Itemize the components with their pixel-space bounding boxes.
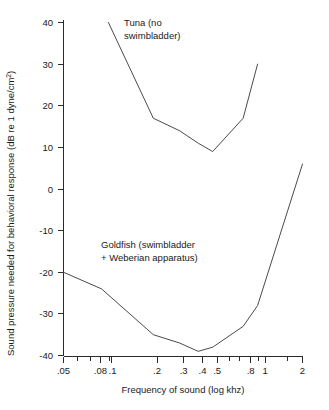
goldfish-annotation: Goldfish (swimbladder + Weberian apparat… <box>101 239 198 263</box>
tuna-label-line2: swimbladder) <box>124 30 181 41</box>
x-tick-label: .8 <box>247 365 255 376</box>
x-axis-ticks <box>64 357 303 363</box>
x-tick-label: .5 <box>213 365 221 376</box>
y-tick-label: 10 <box>42 142 53 153</box>
x-axis-tick-labels: .05 .08 .1 .2 .3 .4 .5 .8 1 2 <box>57 365 305 376</box>
x-tick-label: .2 <box>153 365 161 376</box>
x-tick-label: .08 <box>94 365 107 376</box>
y-tick-label: -30 <box>39 308 53 319</box>
y-tick-label: 0 <box>48 184 53 195</box>
x-tick-label: .4 <box>199 365 207 376</box>
tuna-label-line1: Tuna (no <box>124 17 162 28</box>
y-tick-label: -10 <box>39 225 53 236</box>
y-tick-label: 20 <box>42 100 53 111</box>
y-axis-tick-labels: 40 30 20 10 0 -10 -20 -30 -40 <box>39 17 53 361</box>
x-tick-label: 2 <box>300 365 305 376</box>
series-line-tuna <box>108 23 257 152</box>
y-axis-title: Sound pressure needed for behavioral res… <box>5 71 16 356</box>
goldfish-label-line2: + Weberian apparatus) <box>101 252 198 263</box>
y-tick-label: -20 <box>39 267 53 278</box>
x-tick-label: .05 <box>57 365 70 376</box>
y-tick-label: 30 <box>42 59 53 70</box>
goldfish-label-line1: Goldfish (swimbladder <box>101 239 195 250</box>
x-tick-label: .1 <box>109 365 117 376</box>
tuna-annotation: Tuna (no swimbladder) <box>124 17 181 41</box>
x-axis-title: Frequency of sound (log khz) <box>121 384 244 395</box>
y-axis-ticks <box>58 23 64 356</box>
plot-area: Sound pressure needed for behavioral res… <box>0 0 329 410</box>
sound-pressure-frequency-chart: Sound pressure needed for behavioral res… <box>0 0 329 410</box>
y-tick-label: -40 <box>39 350 53 361</box>
y-tick-label: 40 <box>42 17 53 28</box>
x-tick-label: .3 <box>180 365 188 376</box>
x-tick-label: 1 <box>263 365 268 376</box>
